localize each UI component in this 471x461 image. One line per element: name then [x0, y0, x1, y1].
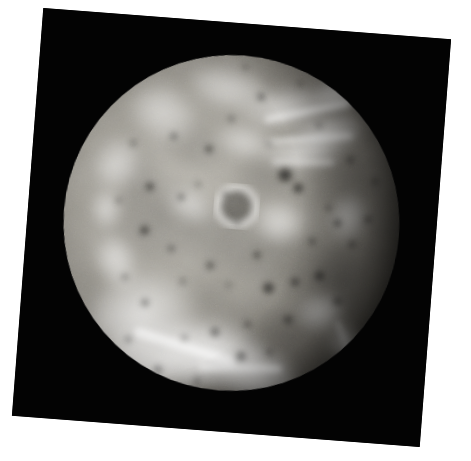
image-canvas: Io bright southern region ringed volcani… [0, 0, 471, 461]
photo-plate [12, 8, 451, 447]
io-disk-render [12, 8, 451, 447]
photo-plate-rotated [12, 8, 451, 447]
